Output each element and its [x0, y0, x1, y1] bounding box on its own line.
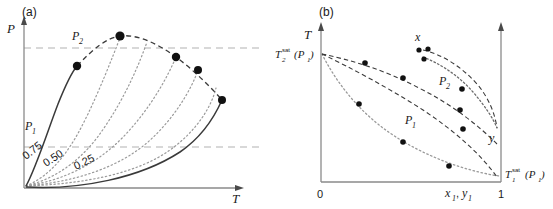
- p2-bubble-curve: [322, 54, 497, 144]
- quality-label-025: 0.25: [72, 152, 97, 172]
- y-axis-arrow-b: [318, 22, 324, 31]
- marker-p1-dew-3: [446, 163, 452, 169]
- panel-a-svg: (a) P T P 2 P 1 0.75 0.50 0.25: [0, 0, 280, 209]
- label-t1-sat-p1: T 1 sat (P 1 ): [505, 167, 545, 184]
- marker-critical-2: [115, 31, 124, 40]
- panel-b-label-p2-sub: 2: [446, 82, 450, 91]
- marker-p1-dew-1: [356, 101, 362, 107]
- panel-b-label-p1: P 1: [404, 113, 416, 130]
- panel-a-y-axis-label: P: [6, 21, 15, 36]
- x-axis-label-x: x: [444, 186, 451, 200]
- label-t2-paren-end: ): [309, 48, 314, 61]
- marker-p2-dew-2: [460, 126, 466, 132]
- label-t1-paren: (P: [525, 168, 536, 181]
- x-tick-1: 1: [498, 188, 504, 200]
- right-axis-arrow-b: [498, 22, 504, 31]
- panel-b: (b) T T 2 sat (P 1 ) T 1 sat (P 1 ): [273, 0, 553, 209]
- panel-a-label-p2-sub: 2: [79, 37, 83, 46]
- x-tick-0: 0: [317, 188, 323, 200]
- marker-x-upper-left: [416, 47, 421, 52]
- panel-a-label-p1-sub: 1: [32, 127, 36, 136]
- marker-critical-1: [73, 62, 81, 70]
- panel-b-label-p1-sub: 1: [412, 121, 416, 130]
- marker-p2-bubble-1: [362, 60, 368, 66]
- marker-x-lower: [421, 56, 426, 61]
- marker-critical-4: [194, 66, 202, 74]
- figure-root: (a) P T P 2 P 1 0.75 0.50 0.25: [0, 0, 553, 209]
- quality-curve-aux-1: [26, 70, 198, 186]
- quality-curve-aux-2: [26, 88, 216, 186]
- x-axis-label-comma: ,: [456, 187, 459, 199]
- panel-a-x-axis-label: T: [232, 191, 240, 206]
- panel-a-label-p1: P 1: [24, 119, 36, 136]
- label-t1-sup: sat: [512, 167, 520, 173]
- marker-p2-dew-1: [459, 86, 465, 92]
- marker-p1-dew-2: [400, 139, 406, 145]
- panel-b-tag: (b): [319, 5, 334, 19]
- panel-b-label-p2: P 2: [438, 74, 450, 91]
- panel-a-tag: (a): [22, 5, 37, 19]
- label-t2-sat-p1: T 2 sat (P 1 ): [275, 47, 314, 64]
- label-t1-paren-end: ): [540, 168, 545, 181]
- x-axis-label-y-sub: 1: [468, 194, 472, 203]
- label-point-x: x: [414, 30, 421, 44]
- panel-b-y-axis-label: T: [304, 27, 312, 42]
- label-t1-sub: 1: [512, 176, 516, 184]
- bubble-curve-solid: [26, 66, 77, 186]
- panel-b-x-axis-label: x 1 , y 1: [444, 186, 472, 203]
- marker-critical-3: [172, 53, 180, 61]
- marker-p2-bubble-2: [400, 75, 406, 81]
- panel-a-label-p2: P 2: [71, 29, 83, 46]
- x-axis-label-y: y: [461, 186, 468, 200]
- label-point-y: y: [488, 131, 495, 145]
- quality-label-050: 0.50: [41, 147, 66, 169]
- label-t2-base: T: [275, 48, 282, 60]
- label-t2-paren: (P: [294, 48, 305, 61]
- label-t2-sub: 2: [282, 56, 286, 64]
- panel-a: (a) P T P 2 P 1 0.75 0.50 0.25: [0, 0, 280, 209]
- label-t1-base: T: [505, 168, 512, 180]
- marker-critical-5: [218, 96, 226, 104]
- marker-x-upper-right: [425, 46, 430, 51]
- marker-p2-bubble-3: [457, 107, 463, 113]
- label-t2-sup: sat: [282, 47, 290, 53]
- panel-b-svg: (b) T T 2 sat (P 1 ) T 1 sat (P 1 ): [273, 0, 553, 209]
